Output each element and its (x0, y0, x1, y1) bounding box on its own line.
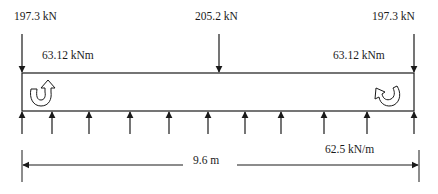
distributed-load-arrows (22, 112, 414, 134)
point-load-right-label: 197.3 kN (372, 11, 415, 23)
beam-diagram: 197.3 kN 205.2 kN 197.3 kN 63.12 kNm 63.… (0, 0, 438, 194)
moment-right-label: 63.12 kNm (333, 50, 385, 62)
dimension-label: 9.6 m (193, 155, 219, 167)
beam (22, 73, 414, 111)
point-load-left-label: 197.3 kN (14, 11, 57, 23)
moment-left-icon (30, 80, 55, 106)
moment-left-label: 63.12 kNm (42, 50, 94, 62)
distributed-load-label: 62.5 kN/m (325, 144, 374, 156)
point-load-middle-label: 205.2 kN (195, 11, 238, 23)
moment-right-icon (375, 86, 400, 106)
